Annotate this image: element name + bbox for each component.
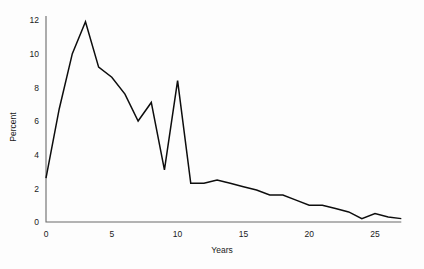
x-axis-title: Years	[211, 245, 232, 255]
line-chart-plot: 024681012 0510152025 Percent Years	[0, 0, 424, 269]
chart-figure: 024681012 0510152025 Percent Years	[0, 0, 424, 269]
x-tick-label: 10	[173, 229, 183, 239]
chart-axes	[46, 16, 401, 222]
x-axis-tick-labels: 0510152025	[44, 229, 380, 239]
y-axis-title: Percent	[8, 112, 18, 142]
y-tick-label: 4	[34, 150, 39, 160]
x-tick-label: 5	[109, 229, 114, 239]
data-series-group	[46, 22, 401, 219]
y-tick-label: 12	[30, 15, 40, 25]
x-tick-label: 15	[239, 229, 249, 239]
x-tick-label: 20	[304, 229, 314, 239]
x-tick-label: 25	[370, 229, 380, 239]
data-line-percent	[46, 22, 401, 219]
axis-lines	[46, 16, 401, 222]
y-tick-label: 2	[34, 184, 39, 194]
y-axis-tick-labels: 024681012	[30, 15, 40, 227]
y-tick-label: 6	[34, 116, 39, 126]
y-tick-label: 8	[34, 83, 39, 93]
x-tick-label: 0	[44, 229, 49, 239]
y-tick-label: 0	[34, 217, 39, 227]
y-tick-label: 10	[30, 49, 40, 59]
